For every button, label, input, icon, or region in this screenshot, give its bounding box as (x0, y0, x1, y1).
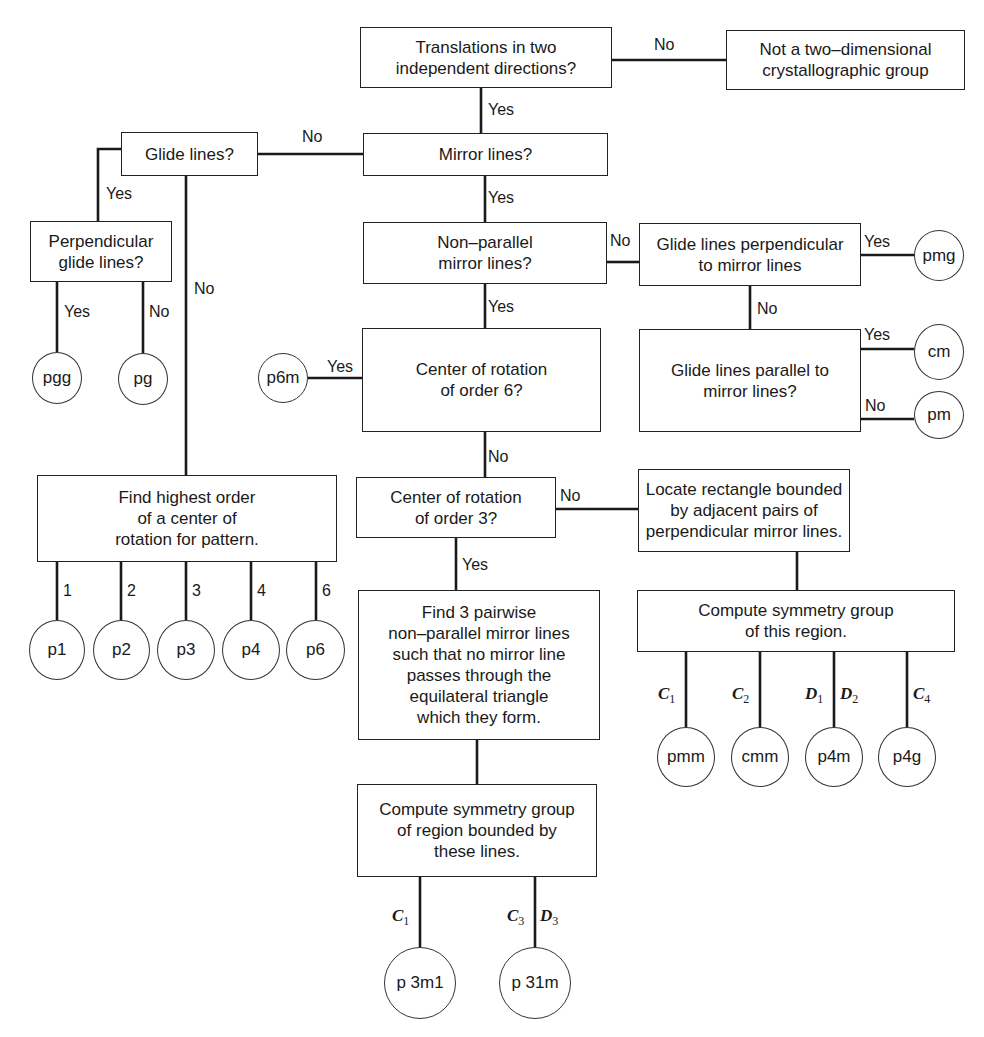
edge-label-yes: Yes (106, 185, 132, 203)
edge-label-no: No (149, 303, 169, 321)
edge-label-order-6: 6 (322, 582, 331, 600)
math-label-d1: D1 (805, 684, 823, 707)
group-pmm: pmm (657, 727, 715, 787)
node-order6: Center of rotation of order 6? (362, 328, 601, 432)
math-label-c4: C4 (913, 684, 930, 707)
group-p3m1: p 3m1 (384, 947, 456, 1019)
edge-label-yes: Yes (64, 303, 90, 321)
edge-label-no: No (560, 487, 580, 505)
node-glide-lines: Glide lines? (121, 132, 258, 176)
node-non-parallel-mirror: Non–parallel mirror lines? (363, 222, 607, 284)
node-order3: Center of rotation of order 3? (356, 477, 556, 538)
group-cmm: cmm (731, 727, 789, 787)
group-pm: pm (914, 391, 964, 439)
group-cm: cm (914, 324, 964, 380)
math-label-c2: C2 (732, 684, 749, 707)
edge-label-yes: Yes (864, 233, 890, 251)
group-p6: p6 (286, 620, 345, 680)
edge-label-yes: Yes (864, 326, 890, 344)
group-p4m: p4m (805, 727, 863, 787)
group-p4: p4 (222, 620, 280, 680)
group-p6m: p6m (258, 353, 308, 403)
edge-label-no: No (654, 36, 674, 54)
node-perpendicular-glide: Perpendicular glide lines? (30, 221, 172, 282)
edge-label-no: No (865, 397, 885, 415)
math-label-c3: C3 (507, 906, 524, 929)
group-p4g: p4g (878, 727, 936, 787)
group-pg: pg (118, 353, 168, 405)
edge-label-no: No (757, 300, 777, 318)
group-p3: p3 (157, 620, 215, 680)
edge-label-yes: Yes (488, 298, 514, 316)
node-highest-order: Find highest order of a center of rotati… (37, 475, 337, 562)
node-not-crystallographic: Not a two–dimensional crystallographic g… (726, 30, 965, 90)
node-compute-bounded: Compute symmetry group of region bounded… (357, 784, 597, 877)
math-label-d2: D2 (840, 684, 858, 707)
node-mirror-lines: Mirror lines? (363, 133, 608, 176)
edge-label-order-1: 1 (63, 582, 72, 600)
edge-label-order-2: 2 (127, 582, 136, 600)
node-locate-rectangle: Locate rectangle bounded by adjacent pai… (638, 469, 850, 552)
group-pgg: pgg (32, 352, 82, 404)
node-glide-perp-mirror: Glide lines perpendicular to mirror line… (639, 223, 861, 286)
group-pmg: pmg (914, 230, 964, 281)
edge-label-yes: Yes (488, 101, 514, 119)
group-p2: p2 (93, 620, 150, 680)
group-p1: p1 (29, 620, 85, 680)
edge-label-no: No (610, 232, 630, 250)
math-label-d3: D3 (540, 906, 558, 929)
edge-label-order-3: 3 (192, 582, 201, 600)
math-label-c1: C1 (392, 906, 409, 929)
edge-label-yes: Yes (462, 556, 488, 574)
node-find3: Find 3 pairwise non–parallel mirror line… (358, 590, 600, 740)
edge-label-no: No (302, 128, 322, 146)
edge-label-no: No (488, 448, 508, 466)
edge-label-order-4: 4 (257, 582, 266, 600)
edge-label-yes: Yes (488, 189, 514, 207)
edge-label-yes: Yes (327, 358, 353, 376)
edge-label-no: No (194, 280, 214, 298)
group-p31m: p 31m (499, 947, 571, 1019)
node-translations: Translations in two independent directio… (360, 27, 612, 88)
node-compute-region: Compute symmetry group of this region. (637, 590, 955, 652)
node-glide-parallel-mirror: Glide lines parallel to mirror lines? (639, 329, 861, 432)
math-label-c1: C1 (658, 684, 675, 707)
